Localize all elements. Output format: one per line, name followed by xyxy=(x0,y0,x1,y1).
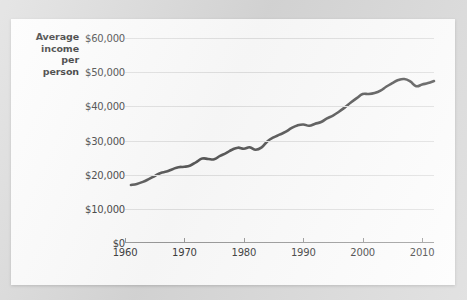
chart-card: Averageincomeperperson $0$10,000$20,000$… xyxy=(11,19,455,285)
y-axis-tick-label: $50,000 xyxy=(67,67,125,78)
x-axis-tick-label: 1990 xyxy=(291,247,316,258)
x-axis-tickmark xyxy=(125,238,126,243)
gridline xyxy=(125,106,434,107)
x-axis-tickmark xyxy=(244,238,245,243)
y-axis-tick-label: $10,000 xyxy=(67,203,125,214)
gridline xyxy=(125,141,434,142)
x-axis-tickmark xyxy=(363,238,364,243)
gridline xyxy=(125,175,434,176)
y-axis-tick-label: $40,000 xyxy=(67,101,125,112)
y-axis-tick-labels: $0$10,000$20,000$30,000$40,000$50,000$60… xyxy=(67,19,125,285)
plot-region xyxy=(125,38,434,243)
x-axis-tickmark xyxy=(422,238,423,243)
x-axis-tickmark xyxy=(303,238,304,243)
x-axis-tick-label: 2000 xyxy=(350,247,375,258)
x-axis-tick-label: 1980 xyxy=(232,247,257,258)
x-axis-tick-labels: 196019701980199020002010 xyxy=(125,247,434,261)
x-axis-tick-label: 2010 xyxy=(410,247,435,258)
y-axis-tick-label: $30,000 xyxy=(67,135,125,146)
gridline xyxy=(125,38,434,39)
x-axis-tick-label: 1960 xyxy=(113,247,138,258)
gridline xyxy=(125,72,434,73)
x-axis-tick-label: 1970 xyxy=(172,247,197,258)
x-axis-tickmark xyxy=(184,238,185,243)
gridline xyxy=(125,209,434,210)
data-series-line xyxy=(131,79,434,185)
x-axis-line xyxy=(125,242,434,243)
y-axis-tick-label: $60,000 xyxy=(67,33,125,44)
chart-area: Averageincomeperperson $0$10,000$20,000$… xyxy=(11,19,455,285)
y-axis-tick-label: $20,000 xyxy=(67,169,125,180)
